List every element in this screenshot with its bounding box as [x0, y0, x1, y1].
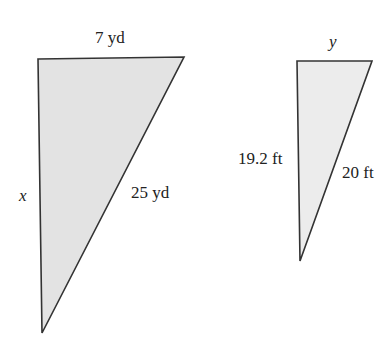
large-triangle-left-label: x: [19, 187, 27, 204]
small-triangle-top-label: y: [329, 33, 337, 50]
small-triangle-left-label: 19.2 ft: [238, 150, 282, 167]
small-triangle-hypotenuse-label: 20 ft: [342, 164, 374, 181]
large-triangle-hypotenuse-label: 25 yd: [131, 184, 169, 201]
small-triangle: [297, 61, 372, 261]
similar-triangles-figure: [0, 0, 383, 345]
large-triangle-top-label: 7 yd: [95, 29, 125, 46]
